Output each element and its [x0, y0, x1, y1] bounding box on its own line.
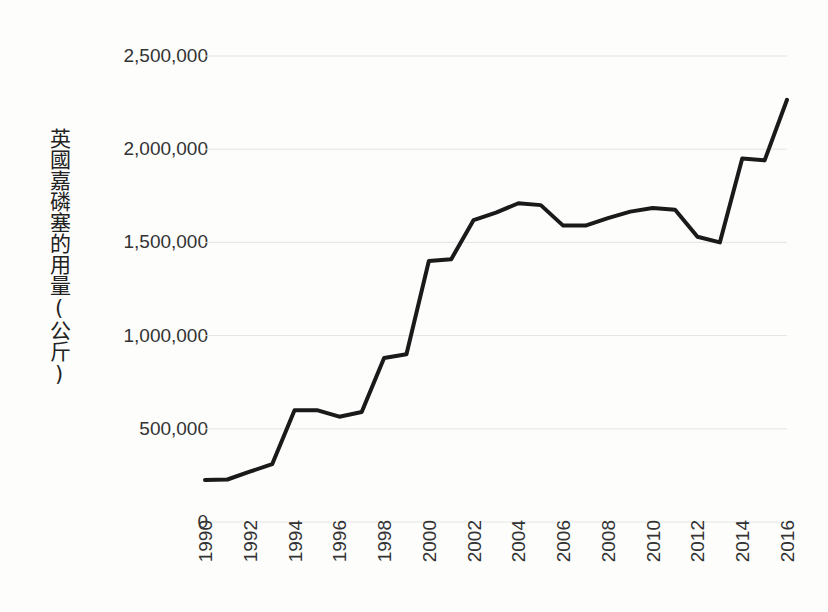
- x-tick-label: 1996: [329, 520, 351, 562]
- x-tick-label: 2010: [643, 520, 665, 562]
- glyphosate-usage-line-chart: 英國嘉磷塞的用量(公斤) 0500,0001,000,0001,500,0002…: [0, 0, 828, 612]
- x-tick-label: 2002: [464, 520, 486, 562]
- x-tick-label: 2012: [687, 520, 709, 562]
- x-tick-label: 2008: [598, 520, 620, 562]
- x-tick-label: 1992: [240, 520, 262, 562]
- x-tick-label: 1994: [285, 520, 307, 562]
- x-tick-label: 2016: [777, 520, 799, 562]
- x-tick-label: 2014: [732, 520, 754, 562]
- x-axis-tick-labels: 1990199219941996199820002002200420062008…: [0, 0, 828, 612]
- x-tick-label: 2004: [508, 520, 530, 562]
- x-tick-label: 1990: [195, 520, 217, 562]
- x-tick-label: 2000: [419, 520, 441, 562]
- x-tick-label: 2006: [553, 520, 575, 562]
- x-tick-label: 1998: [374, 520, 396, 562]
